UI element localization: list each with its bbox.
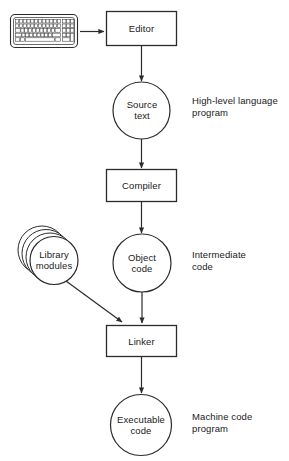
circle-source-text xyxy=(113,82,170,139)
circle-object-code xyxy=(113,234,171,292)
box-linker xyxy=(107,326,177,357)
annotation-high-level-language-program: High-level language program xyxy=(192,95,278,119)
keyboard-icon xyxy=(11,15,78,48)
annotation-machine-code-program: Machine code program xyxy=(192,411,252,435)
circle-executable-code xyxy=(111,395,172,456)
box-compiler xyxy=(107,170,177,202)
annotation-intermediate-code: Intermediate code xyxy=(192,249,246,273)
stack-library-modules xyxy=(18,226,78,285)
box-editor xyxy=(107,12,177,46)
diagram-canvas: Editor Source text Compiler Object code … xyxy=(0,0,289,461)
flowchart-graphic xyxy=(0,0,289,461)
arrow-library-modules-to-linker xyxy=(66,281,122,322)
